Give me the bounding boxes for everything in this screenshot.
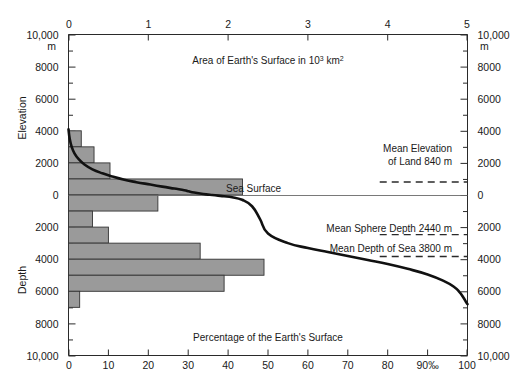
top-tick-label-3: 3 xyxy=(305,18,311,30)
bottom-tick-label-8: 80 xyxy=(382,359,394,371)
right-tick-label-6: 2000 xyxy=(478,221,502,233)
histogram-bar xyxy=(69,259,265,275)
bottom-axis-labels: 0102030405060708090‰100 xyxy=(66,359,476,371)
right-tick-label-8: 6000 xyxy=(478,285,502,297)
hypsographic-curve-figure: 10,0008000600040002000020004000600080001… xyxy=(0,0,511,389)
left-axis-title-elevation: Elevation xyxy=(16,96,28,139)
right-tick-label-4: 2000 xyxy=(478,157,502,169)
left-tick-label-3: 4000 xyxy=(35,125,59,137)
top-tick-label-4: 4 xyxy=(385,18,391,30)
left-tick-label-9: 8000 xyxy=(35,318,59,330)
left-tick-label-10: 10,000 xyxy=(26,350,58,362)
bottom-tick-label-7: 70 xyxy=(342,359,354,371)
area-histogram-bars xyxy=(69,131,265,308)
right-axis-labels: 10,0008000600040002000020004000600080001… xyxy=(478,29,510,362)
right-tick-label-7: 4000 xyxy=(478,253,502,265)
histogram-bar xyxy=(69,211,93,227)
bottom-tick-label-10: 100 xyxy=(458,359,476,371)
left-tick-label-6: 2000 xyxy=(35,221,59,233)
mean-elevation-land-label-line1: Mean Elevation xyxy=(383,143,452,154)
top-tick-label-1: 1 xyxy=(145,18,151,30)
left-tick-label-8: 6000 xyxy=(35,285,59,297)
right-tick-label-10: 10,000 xyxy=(478,350,510,362)
bottom-tick-label-5: 50 xyxy=(262,359,274,371)
right-tick-label-5: 0 xyxy=(478,189,484,201)
left-tick-label-1: 8000 xyxy=(35,61,59,73)
right-axis-unit-m: m xyxy=(480,40,489,52)
mean-sphere-depth-label: Mean Sphere Depth 2440 m xyxy=(326,223,452,234)
top-tick-label-5: 5 xyxy=(464,18,470,30)
right-tick-label-0: 10,000 xyxy=(478,29,510,41)
mean-depth-sea-label: Mean Depth of Sea 3800 m xyxy=(330,243,452,254)
chart-svg: 10,0008000600040002000020004000600080001… xyxy=(0,0,511,389)
top-caption: Area of Earth's Surface in 103 km2 xyxy=(192,55,344,67)
right-tick-label-3: 4000 xyxy=(478,125,502,137)
bottom-tick-label-1: 10 xyxy=(103,359,115,371)
bottom-tick-label-4: 40 xyxy=(222,359,234,371)
bottom-tick-label-2: 20 xyxy=(142,359,154,371)
sea-surface-label: Sea Surface xyxy=(226,183,281,194)
mean-elevation-land-label-line2: of Land 840 m xyxy=(388,156,452,167)
histogram-bar xyxy=(69,195,158,211)
left-tick-label-0: 10,000 xyxy=(26,29,58,41)
left-tick-label-4: 2000 xyxy=(35,157,59,169)
histogram-bar xyxy=(69,243,201,259)
histogram-bar xyxy=(69,227,109,243)
bottom-tick-label-9: 90‰ xyxy=(417,359,440,371)
top-axis-labels: 012345 xyxy=(66,18,470,30)
histogram-bar xyxy=(69,275,225,291)
bottom-tick-label-3: 30 xyxy=(182,359,194,371)
histogram-bar xyxy=(69,179,243,195)
bottom-caption: Percentage of the Earth's Surface xyxy=(193,332,343,343)
left-axis-title-depth: Depth xyxy=(16,266,28,294)
bottom-axis-ticks xyxy=(69,350,467,356)
left-tick-label-5: 0 xyxy=(53,189,59,201)
bottom-tick-label-0: 0 xyxy=(66,359,72,371)
bottom-tick-label-6: 60 xyxy=(302,359,314,371)
top-tick-label-0: 0 xyxy=(66,18,72,30)
right-tick-label-1: 8000 xyxy=(478,61,502,73)
right-tick-label-2: 6000 xyxy=(478,93,502,105)
histogram-bar xyxy=(69,163,110,179)
top-axis-ticks xyxy=(69,35,467,41)
left-axis-unit-m: m xyxy=(47,40,56,52)
left-tick-label-2: 6000 xyxy=(35,93,59,105)
top-tick-label-2: 2 xyxy=(225,18,231,30)
left-tick-label-7: 4000 xyxy=(35,253,59,265)
histogram-bar xyxy=(69,291,80,307)
left-axis-labels: 10,0008000600040002000020004000600080001… xyxy=(26,29,58,362)
right-tick-label-9: 8000 xyxy=(478,318,502,330)
